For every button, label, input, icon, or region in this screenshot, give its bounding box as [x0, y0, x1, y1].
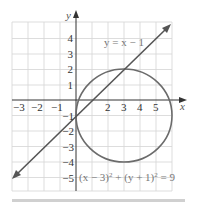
- svg-text:4: 4: [137, 101, 143, 113]
- svg-text:3: 3: [121, 101, 127, 113]
- svg-text:−1: −1: [51, 101, 63, 113]
- svg-text:−2: −2: [31, 101, 43, 113]
- x-axis-label: x: [179, 100, 185, 112]
- svg-text:−5: −5: [62, 172, 74, 184]
- svg-text:−3: −3: [13, 101, 25, 113]
- graph-canvas: y x −3 −2 −1 2 3 4 5 4 3 2 1 −1 −2 −3 −4…: [0, 0, 197, 202]
- svg-text:4: 4: [68, 32, 74, 44]
- svg-text:3: 3: [68, 48, 74, 60]
- line-equation-label: y = x − 1: [104, 36, 144, 48]
- y-tick-labels: 4 3 2 1 −1 −2 −3 −4 −5: [62, 32, 74, 184]
- svg-text:−2: −2: [62, 125, 74, 137]
- bottom-rule: [12, 199, 185, 202]
- svg-text:2: 2: [105, 101, 111, 113]
- svg-text:5: 5: [153, 101, 159, 113]
- y-axis-arrow-icon: [73, 10, 79, 18]
- svg-text:−1: −1: [62, 110, 74, 122]
- svg-text:1: 1: [68, 79, 74, 91]
- svg-text:−3: −3: [62, 141, 74, 153]
- svg-text:2: 2: [68, 63, 74, 75]
- circle-equation-label: (x − 3)2 + (y + 1)2 = 9: [79, 171, 175, 184]
- y-axis-label: y: [65, 9, 71, 21]
- svg-text:−4: −4: [62, 156, 74, 168]
